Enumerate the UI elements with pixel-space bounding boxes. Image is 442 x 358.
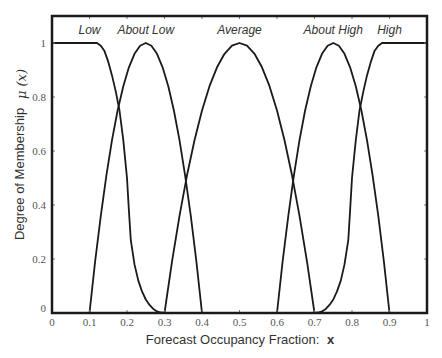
set-label-about-low: About Low [116, 23, 175, 37]
set-label-about-high: About High [303, 23, 364, 37]
y-tick-label: 1 [41, 37, 47, 49]
y-axis-label-text: Degree of Membership [12, 108, 27, 240]
x-tick-label: 0.4 [195, 316, 209, 328]
curve-about-high [277, 43, 390, 313]
x-tick-label: 0.1 [83, 316, 97, 328]
set-label-average: Average [216, 23, 262, 37]
curve-low [52, 43, 165, 313]
x-tick-label: 0.5 [233, 316, 247, 328]
x-tick-label: 0.2 [120, 316, 134, 328]
fuzzy-set-labels: LowAbout LowAverageAbout HighHigh [78, 23, 402, 37]
x-axis-variable: x [327, 332, 335, 347]
x-tick-label: 0.9 [383, 316, 397, 328]
set-label-high: High [377, 23, 402, 37]
y-axis-ticks: 00.20.40.60.81 [32, 37, 427, 314]
x-tick-label: 0 [49, 316, 55, 328]
x-axis-label: Forecast Occupancy Fraction: x [146, 332, 335, 347]
y-tick-label: 0.2 [32, 253, 46, 265]
y-tick-label: 0.4 [32, 199, 46, 211]
y-tick-label: 0 [41, 302, 47, 314]
set-label-low: Low [78, 23, 101, 37]
x-tick-label: 0.3 [158, 316, 172, 328]
curve-about-low [90, 43, 203, 313]
x-axis-label-text: Forecast Occupancy Fraction: [146, 332, 319, 347]
y-axis-mu-symbol: μ (x) [14, 69, 29, 99]
membership-curves [52, 43, 427, 313]
x-tick-label: 0.8 [345, 316, 359, 328]
x-tick-label: 1 [424, 316, 430, 328]
y-tick-label: 0.8 [32, 91, 46, 103]
y-axis-label-group: Degree of Membership μ (x) [12, 69, 29, 240]
x-tick-label: 0.6 [270, 316, 284, 328]
membership-chart: 00.10.20.30.40.50.60.70.80.91 00.20.40.6… [0, 0, 442, 358]
y-axis-label: Degree of Membership [12, 108, 27, 240]
y-tick-label: 0.6 [32, 145, 46, 157]
curve-average [165, 43, 315, 313]
curve-high [315, 43, 428, 313]
x-tick-label: 0.7 [308, 316, 322, 328]
